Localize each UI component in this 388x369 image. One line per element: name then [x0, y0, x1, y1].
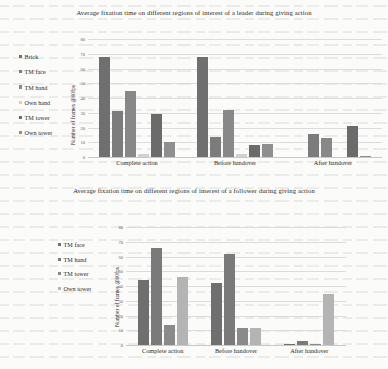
x-axis-labels-leader: Complete actionBefore handoverAfter hand… — [88, 159, 382, 166]
legend-item-own-hand[interactable]: Own hand — [19, 99, 52, 106]
legend-item-tm-hand[interactable]: TM hand — [19, 84, 52, 91]
x-axis-category-label: Complete action — [126, 347, 199, 354]
legend-item-label: Own tower — [64, 285, 92, 292]
bar-groups-leader — [88, 39, 382, 157]
bar-group-before-handover — [186, 39, 284, 157]
legend-swatch-icon — [58, 287, 61, 290]
x-axis-category-label: Before handover — [186, 159, 284, 166]
gridline — [88, 157, 382, 158]
bar[interactable] — [297, 341, 308, 345]
bar[interactable] — [138, 280, 149, 345]
legend-swatch-icon — [19, 85, 22, 88]
bar[interactable] — [310, 344, 321, 345]
x-axis-category-label: Before handover — [199, 347, 272, 354]
legend-swatch-icon — [19, 70, 22, 73]
legend-item-tm-hand[interactable]: TM hand — [58, 256, 91, 263]
bar-group-complete-action — [88, 39, 186, 157]
bar[interactable] — [112, 111, 123, 157]
bar[interactable] — [224, 254, 235, 345]
y-axis-tick-label: 30 — [80, 110, 85, 115]
bar[interactable] — [249, 145, 260, 157]
legend-item-tm-face[interactable]: TM face — [58, 241, 91, 248]
gridline — [126, 345, 346, 346]
chart-body-follower: TM faceTM handTM towerOwn tower Number o… — [0, 195, 388, 355]
legend-item-label: TM tower — [25, 114, 50, 121]
bar-groups-follower — [126, 227, 346, 345]
legend-item-tm-tower[interactable]: TM tower — [58, 270, 91, 277]
bar[interactable] — [151, 114, 162, 157]
legend-item-brick[interactable]: Brick — [19, 53, 52, 60]
x-axis-category-label: After handover — [273, 347, 346, 354]
x-axis-category-label: After handover — [284, 159, 382, 166]
bar[interactable] — [177, 277, 188, 345]
bar[interactable] — [360, 156, 371, 157]
bar[interactable] — [323, 294, 334, 346]
x-axis-labels-follower: Complete actionBefore handoverAfter hand… — [126, 347, 346, 354]
chart-leader: Average fixation time on different regio… — [0, 0, 388, 181]
y-axis-tick-label: 10 — [118, 328, 123, 333]
bar[interactable] — [223, 110, 234, 157]
bar[interactable] — [308, 134, 319, 158]
bar[interactable] — [262, 144, 273, 157]
bar[interactable] — [211, 283, 222, 345]
legend-item-label: TM hand — [25, 84, 48, 91]
legend-item-label: Own tower — [25, 129, 53, 136]
bar[interactable] — [236, 154, 247, 157]
y-axis-ticks-follower: 01020304050607080 — [110, 227, 124, 345]
legend-item-label: TM tower — [64, 270, 89, 277]
legend-item-own-tower[interactable]: Own tower — [58, 285, 91, 292]
y-axis-tick-label: 50 — [118, 269, 123, 274]
legend-swatch-icon — [19, 131, 22, 134]
chart-body-leader: BrickTM faceTM handOwn handTM towerOwn t… — [0, 17, 388, 169]
legend-swatch-icon — [19, 55, 22, 58]
legend-item-label: TM face — [25, 68, 46, 75]
legend-swatch-icon — [58, 258, 61, 261]
y-axis-tick-label: 40 — [80, 96, 85, 101]
y-axis-ticks-leader: 01020304050607080 — [72, 39, 86, 157]
y-axis-tick-label: 50 — [80, 81, 85, 86]
bar[interactable] — [321, 138, 332, 157]
bar[interactable] — [138, 154, 149, 157]
bar[interactable] — [151, 248, 162, 345]
plot-area-leader — [88, 39, 382, 157]
y-axis-tick-label: 70 — [80, 51, 85, 56]
bar[interactable] — [250, 328, 261, 346]
legend-swatch-icon — [19, 101, 22, 104]
legend-swatch-icon — [58, 272, 61, 275]
chart-title-follower: Average fixation time on different regio… — [0, 181, 388, 195]
bar[interactable] — [164, 325, 175, 346]
bar[interactable] — [347, 126, 358, 157]
x-axis-category-label: Complete action — [88, 159, 186, 166]
legend-follower: TM faceTM handTM towerOwn tower — [58, 241, 91, 292]
legend-swatch-icon — [58, 243, 61, 246]
y-axis-tick-label: 30 — [118, 298, 123, 303]
y-axis-tick-label: 20 — [118, 313, 123, 318]
bar[interactable] — [125, 91, 136, 157]
bar[interactable] — [210, 137, 221, 158]
bar[interactable] — [99, 57, 110, 157]
y-axis-tick-label: 20 — [80, 125, 85, 130]
legend-item-label: TM hand — [64, 256, 87, 263]
legend-item-own-tower[interactable]: Own tower — [19, 129, 52, 136]
legend-item-label: Own hand — [25, 99, 51, 106]
y-axis-tick-label: 0 — [83, 155, 85, 160]
legend-item-tm-tower[interactable]: TM tower — [19, 114, 52, 121]
bar-group-after-handover — [284, 39, 382, 157]
bar[interactable] — [197, 57, 208, 157]
y-axis-tick-label: 0 — [121, 343, 123, 348]
bar[interactable] — [164, 142, 175, 157]
chart-title-leader: Average fixation time on different regio… — [0, 0, 388, 17]
bar-group-before-handover — [199, 227, 272, 345]
y-axis-tick-label: 10 — [80, 140, 85, 145]
legend-leader: BrickTM faceTM handOwn handTM towerOwn t… — [19, 53, 52, 136]
bar-group-after-handover — [273, 227, 346, 345]
bar[interactable] — [237, 328, 248, 346]
legend-swatch-icon — [19, 116, 22, 119]
y-axis-tick-label: 70 — [118, 239, 123, 244]
bar[interactable] — [284, 344, 295, 345]
y-axis-tick-label: 60 — [80, 66, 85, 71]
plot-area-follower — [126, 227, 346, 345]
y-axis-tick-label: 80 — [80, 37, 85, 42]
y-axis-tick-label: 80 — [118, 225, 123, 230]
legend-item-tm-face[interactable]: TM face — [19, 68, 52, 75]
